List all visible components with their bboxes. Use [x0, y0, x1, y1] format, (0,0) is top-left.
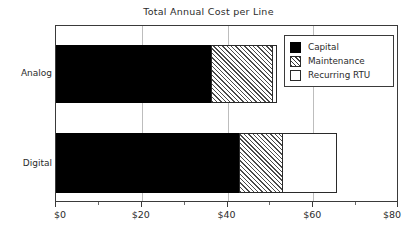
- x-tick-minor-50: [269, 202, 270, 205]
- x-axis-label-20: $20: [132, 209, 150, 220]
- x-tick-major-60: [312, 202, 313, 207]
- bar-segment-digital-recurring-rtu: [282, 133, 337, 193]
- legend-label-maintenance: Maintenance: [308, 56, 365, 66]
- legend-item-maintenance: Maintenance: [290, 54, 388, 68]
- bar-segment-digital-maintenance: [239, 133, 283, 193]
- bar-segment-digital-capital: [56, 133, 240, 193]
- legend-item-recurring-rtu: Recurring RTU: [290, 68, 388, 82]
- x-axis-label-0: $0: [54, 209, 66, 220]
- legend-swatch-maintenance-icon: [290, 56, 301, 67]
- x-tick-minor-10: [98, 202, 99, 205]
- bar-segment-analog-capital: [56, 45, 213, 103]
- chart-container: Total Annual Cost per Line Analog Digita…: [0, 0, 417, 231]
- x-tick-minor-70: [355, 202, 356, 205]
- y-axis-label-digital: Digital: [4, 158, 52, 168]
- legend-swatch-recurring-rtu-icon: [290, 70, 301, 81]
- x-axis-label-40: $40: [217, 209, 235, 220]
- legend-label-capital: Capital: [308, 42, 339, 52]
- bar-analog: [56, 45, 277, 103]
- x-axis-label-80: $80: [383, 209, 401, 220]
- x-axis: $0 $20 $40 $60 $80: [55, 202, 398, 231]
- y-axis-label-analog: Analog: [4, 68, 52, 78]
- bar-segment-analog-maintenance: [211, 45, 272, 103]
- y-axis-labels: Analog Digital: [0, 0, 52, 231]
- chart-title: Total Annual Cost per Line: [0, 6, 417, 17]
- legend-item-capital: Capital: [290, 40, 388, 54]
- x-tick-major-0: [55, 202, 56, 207]
- chart-legend: Capital Maintenance Recurring RTU: [284, 35, 394, 87]
- legend-swatch-capital-icon: [290, 42, 301, 53]
- bar-segment-analog-recurring-rtu: [272, 45, 277, 103]
- bar-digital: [56, 133, 337, 193]
- legend-label-recurring-rtu: Recurring RTU: [308, 70, 370, 80]
- plot-area: Capital Maintenance Recurring RTU: [55, 25, 398, 202]
- x-tick-major-40: [227, 202, 228, 207]
- x-tick-major-20: [141, 202, 142, 207]
- x-tick-major-80: [397, 202, 398, 207]
- x-axis-label-60: $60: [303, 209, 321, 220]
- x-tick-minor-30: [184, 202, 185, 205]
